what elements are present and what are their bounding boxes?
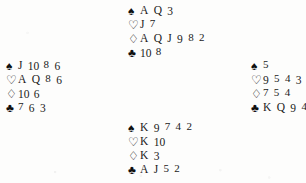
spade-icon: ♠ bbox=[128, 122, 139, 134]
north-club-row: ♣ 10 8 bbox=[128, 46, 206, 60]
diamond-icon: ♢ bbox=[128, 150, 139, 162]
north-diamond-row: ♢ A Q J 9 8 2 bbox=[128, 32, 206, 46]
heart-icon: ♡ bbox=[128, 19, 139, 31]
south-diamond-ranks: K 3 bbox=[140, 149, 161, 162]
heart-icon: ♡ bbox=[251, 74, 262, 86]
west-spade-row: ♠ J 10 8 6 bbox=[6, 59, 63, 73]
diamond-icon: ♢ bbox=[6, 88, 17, 100]
north-diamond-ranks: A Q J 9 8 2 bbox=[140, 32, 206, 45]
south-spade-row: ♠ K 9 7 4 2 bbox=[128, 121, 193, 135]
south-club-row: ♣ A J 5 2 bbox=[128, 163, 193, 177]
west-club-ranks: 7 6 3 bbox=[18, 101, 47, 114]
south-club-ranks: A J 5 2 bbox=[140, 163, 181, 176]
east-heart-row: ♡ 9 5 4 3 2 bbox=[251, 73, 306, 87]
club-icon: ♣ bbox=[128, 47, 139, 59]
west-heart-row: ♡ A Q 8 6 bbox=[6, 73, 63, 87]
north-heart-ranks: J 7 bbox=[140, 18, 156, 31]
spade-icon: ♠ bbox=[6, 60, 17, 72]
north-club-ranks: 10 8 bbox=[140, 46, 162, 59]
east-spade-ranks: 5 bbox=[263, 59, 270, 72]
spade-icon: ♠ bbox=[251, 60, 262, 72]
heart-icon: ♡ bbox=[128, 136, 139, 148]
hand-west: ♠ J 10 8 6 ♡ A Q 8 6 ♢ 10 6 ♣ 7 6 3 bbox=[6, 59, 63, 115]
bridge-hand-diagram: ♠ A Q 3 ♡ J 7 ♢ A Q J 9 8 2 ♣ 10 8 ♠ J 1… bbox=[0, 0, 306, 183]
north-spade-ranks: A Q 3 bbox=[140, 4, 174, 17]
west-diamond-ranks: 10 6 bbox=[18, 87, 41, 100]
west-diamond-row: ♢ 10 6 bbox=[6, 87, 63, 101]
club-icon: ♣ bbox=[6, 102, 17, 114]
south-heart-ranks: K 10 bbox=[140, 135, 165, 148]
north-heart-row: ♡ J 7 bbox=[128, 18, 206, 32]
east-heart-ranks: 9 5 4 3 2 bbox=[263, 73, 306, 86]
south-diamond-row: ♢ K 3 bbox=[128, 149, 193, 163]
west-heart-ranks: A Q 8 6 bbox=[18, 73, 63, 86]
west-club-row: ♣ 7 6 3 bbox=[6, 101, 63, 115]
east-diamond-row: ♢ 7 5 4 bbox=[251, 87, 306, 101]
east-spade-row: ♠ 5 bbox=[251, 59, 306, 73]
hand-south: ♠ K 9 7 4 2 ♡ K 10 ♢ K 3 ♣ A J 5 2 bbox=[128, 121, 193, 177]
diamond-icon: ♢ bbox=[128, 33, 139, 45]
east-club-ranks: K Q 9 4 bbox=[263, 101, 306, 114]
hand-east: ♠ 5 ♡ 9 5 4 3 2 ♢ 7 5 4 ♣ K Q 9 4 bbox=[251, 59, 306, 115]
south-heart-row: ♡ K 10 bbox=[128, 135, 193, 149]
hand-north: ♠ A Q 3 ♡ J 7 ♢ A Q J 9 8 2 ♣ 10 8 bbox=[128, 4, 206, 60]
west-spade-ranks: J 10 8 6 bbox=[18, 59, 61, 72]
club-icon: ♣ bbox=[251, 102, 262, 114]
north-spade-row: ♠ A Q 3 bbox=[128, 4, 206, 18]
diamond-icon: ♢ bbox=[251, 88, 262, 100]
east-club-row: ♣ K Q 9 4 bbox=[251, 101, 306, 115]
spade-icon: ♠ bbox=[128, 5, 139, 17]
heart-icon: ♡ bbox=[6, 74, 17, 86]
club-icon: ♣ bbox=[128, 164, 139, 176]
south-spade-ranks: K 9 7 4 2 bbox=[140, 121, 193, 134]
east-diamond-ranks: 7 5 4 bbox=[263, 87, 291, 100]
